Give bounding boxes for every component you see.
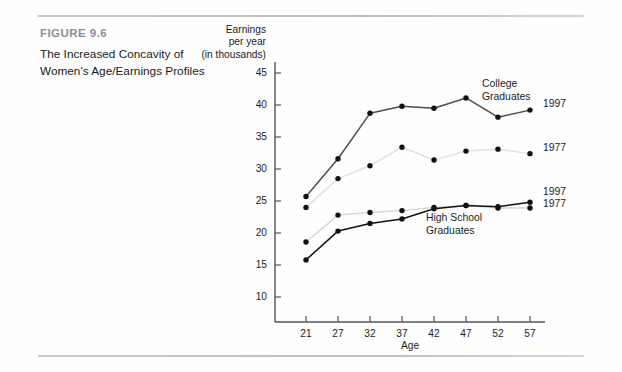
data-point	[367, 221, 372, 226]
data-point	[527, 200, 532, 205]
data-point	[303, 257, 308, 262]
data-point	[527, 151, 532, 156]
data-point	[335, 176, 340, 181]
data-point	[303, 239, 308, 244]
series-college-graduates-1977	[303, 145, 532, 211]
data-point	[367, 210, 372, 215]
figure-page: FIGURE 9.6 The Increased Concavity of Wo…	[0, 0, 622, 372]
data-point	[527, 205, 532, 210]
data-point	[303, 205, 308, 210]
data-point	[335, 228, 340, 233]
data-point	[463, 95, 468, 100]
data-point	[527, 107, 532, 112]
data-point	[335, 212, 340, 217]
data-point	[495, 146, 500, 151]
data-point	[431, 106, 436, 111]
data-point	[367, 111, 372, 116]
data-point	[495, 204, 500, 209]
annotation-high-school-graduates: High School Graduates	[426, 212, 482, 237]
annotation-hs-line-2: Graduates	[426, 225, 475, 236]
data-point	[399, 208, 404, 213]
annotation-hs-line-1: High School	[426, 212, 482, 223]
data-point	[431, 206, 436, 211]
annotation-college-line-1: College	[482, 78, 517, 89]
data-point	[495, 114, 500, 119]
series-line	[306, 205, 530, 241]
data-point	[399, 216, 404, 221]
data-point	[463, 203, 468, 208]
chart-svg	[0, 0, 622, 372]
series-label-college-1977: 1977	[543, 142, 566, 155]
data-point	[463, 148, 468, 153]
series-label-college-1997: 1997	[543, 98, 566, 111]
annotation-college-line-2: Graduates	[482, 91, 531, 102]
data-point	[335, 156, 340, 161]
data-point	[303, 194, 308, 199]
data-point	[399, 145, 404, 150]
series-label-hs-1977: 1977	[543, 198, 566, 211]
data-point	[367, 163, 372, 168]
data-point	[399, 104, 404, 109]
data-point	[431, 157, 436, 162]
series-label-hs-1997: 1997	[543, 186, 566, 199]
annotation-college-graduates: College Graduates	[482, 78, 531, 103]
chart-plot-area: Earnings per year (in thousands) Age 101…	[0, 0, 622, 372]
